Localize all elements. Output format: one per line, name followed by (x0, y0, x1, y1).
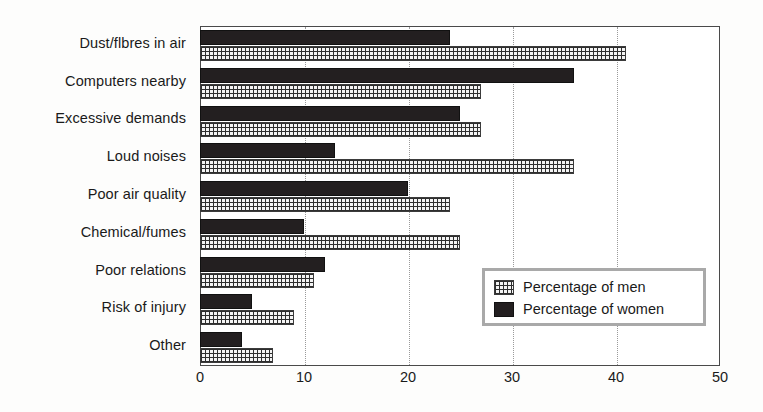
category-label: Poor relations (0, 262, 186, 278)
bar-group (200, 64, 720, 102)
bar-men (200, 159, 574, 174)
legend-label-men: Percentage of men (523, 279, 646, 295)
chart-legend: Percentage of men Percentage of women (482, 268, 706, 326)
bar-group (200, 328, 720, 366)
bar-men (200, 310, 294, 325)
legend-swatch-men-icon (494, 280, 514, 295)
category-label: Loud noises (0, 148, 186, 164)
category-label: Poor air quality (0, 186, 186, 202)
bar-chart: Dust/flbres in airComputers nearbyExcess… (0, 0, 763, 412)
bar-women (200, 68, 574, 83)
bar-men (200, 46, 626, 61)
bar-group (200, 177, 720, 215)
legend-entry-men: Percentage of men (494, 276, 695, 298)
x-tick-label-40: 40 (608, 369, 624, 385)
bar-women (200, 143, 335, 158)
bar-men (200, 84, 481, 99)
bar-women (200, 181, 408, 196)
legend-swatch-women-icon (494, 302, 514, 317)
legend-entry-women: Percentage of women (494, 298, 695, 320)
category-label: Other (0, 337, 186, 353)
bar-group (200, 26, 720, 64)
bar-men (200, 348, 273, 363)
x-tick-label-50: 50 (712, 369, 728, 385)
x-tick-label-20: 20 (400, 369, 416, 385)
bar-women (200, 30, 450, 45)
x-tick-label-30: 30 (504, 369, 520, 385)
x-axis-tick-labels: 01020304050 (200, 369, 720, 393)
bar-women (200, 106, 460, 121)
x-tick-label-0: 0 (196, 369, 204, 385)
category-label: Risk of injury (0, 299, 186, 315)
bar-women (200, 332, 242, 347)
category-label: Excessive demands (0, 110, 186, 126)
category-label: Computers nearby (0, 73, 186, 89)
bar-women (200, 219, 304, 234)
bar-women (200, 294, 252, 309)
bar-group (200, 139, 720, 177)
bar-men (200, 273, 314, 288)
bar-men (200, 197, 450, 212)
legend-label-women: Percentage of women (523, 301, 664, 317)
category-axis-labels: Dust/flbres in airComputers nearbyExcess… (0, 26, 194, 366)
bar-men (200, 235, 460, 250)
category-label: Dust/flbres in air (0, 35, 186, 51)
bar-women (200, 257, 325, 272)
bar-group (200, 102, 720, 140)
x-tick-label-10: 10 (296, 369, 312, 385)
bar-men (200, 122, 481, 137)
category-label: Chemical/fumes (0, 224, 186, 240)
bar-group (200, 215, 720, 253)
